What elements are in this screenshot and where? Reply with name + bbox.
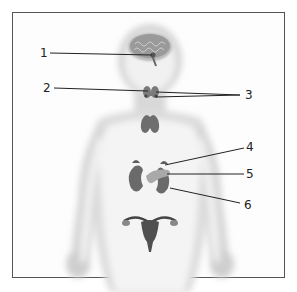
callout-3-parathyroid: 3 (245, 89, 253, 101)
callout-4-adrenal: 4 (246, 141, 254, 153)
callout-5-pancreas: 5 (246, 168, 254, 180)
callout-6-kidney: 6 (244, 199, 252, 211)
callout-1-pituitary: 1 (40, 47, 48, 59)
callout-2-thyroid: 2 (43, 82, 51, 94)
